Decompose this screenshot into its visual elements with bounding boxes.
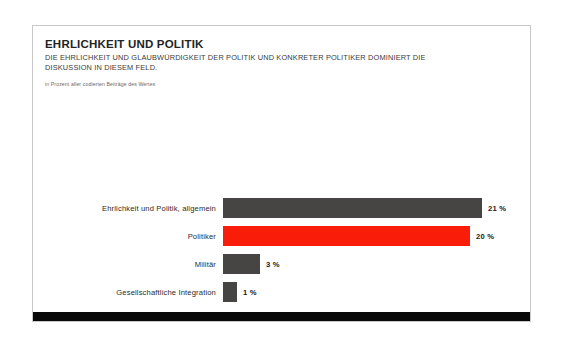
bar-value-label: 3 %: [260, 260, 280, 269]
bar-fill: [223, 254, 260, 274]
page-title: EHRLICHKEIT UND POLITIK: [45, 38, 518, 51]
bar-track: 20 %: [223, 226, 530, 246]
bar-category-label: Gesellschaftliche Integration: [33, 288, 223, 297]
bar-fill-accent: [223, 226, 470, 246]
bar-category-label: Politiker: [33, 232, 223, 241]
chart-subtitle: DIE EHRLICHKEIT UND GLAUBWÜRDIGKEIT DER …: [45, 53, 453, 72]
bar-value-label: 20 %: [470, 232, 494, 241]
bar-value-label: 21 %: [482, 204, 506, 213]
chart-unit-note: in Prozent aller codierten Beiträge des …: [45, 80, 518, 88]
bar-chart-plot: Ehrlichkeit und Politik, allgemein 21 % …: [33, 194, 530, 306]
bar-row: Politiker 20 %: [33, 222, 530, 250]
bar-row: Ehrlichkeit und Politik, allgemein 21 %: [33, 194, 530, 222]
bar-track: 3 %: [223, 254, 530, 274]
bar-track: 21 %: [223, 198, 530, 218]
footer-band: [33, 312, 530, 321]
chart-card: EHRLICHKEIT UND POLITIK DIE EHRLICHKEIT …: [32, 25, 531, 322]
chart-header: EHRLICHKEIT UND POLITIK DIE EHRLICHKEIT …: [45, 38, 518, 88]
bar-track: 1 %: [223, 282, 530, 302]
bar-category-label: Militär: [33, 260, 223, 269]
bar-fill: [223, 282, 237, 302]
bar-category-label: Ehrlichkeit und Politik, allgemein: [33, 204, 223, 213]
bar-value-label: 1 %: [237, 288, 257, 297]
slide-canvas: EHRLICHKEIT UND POLITIK DIE EHRLICHKEIT …: [0, 0, 564, 341]
bar-fill: [223, 198, 482, 218]
bar-row: Militär 3 %: [33, 250, 530, 278]
bar-row: Gesellschaftliche Integration 1 %: [33, 278, 530, 306]
chart-card-body: EHRLICHKEIT UND POLITIK DIE EHRLICHKEIT …: [33, 26, 530, 321]
